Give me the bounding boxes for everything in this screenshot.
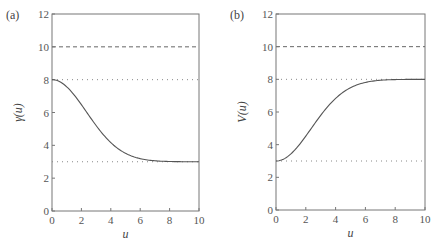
- x-tick-label: 4: [108, 214, 114, 226]
- y-tick-label: 0: [268, 204, 274, 216]
- y-tick-label: 6: [268, 106, 274, 118]
- y-tick-label: 10: [38, 41, 50, 53]
- x-tick-label: 8: [392, 213, 398, 225]
- series-curve: [276, 79, 425, 161]
- panel-b: 0246810024681012uV(u)(b): [230, 8, 431, 240]
- x-tick-label: 2: [303, 213, 309, 225]
- y-tick-label: 0: [44, 205, 50, 217]
- x-tick-label: 8: [167, 214, 173, 226]
- x-tick-label: 10: [420, 213, 432, 225]
- x-tick-label: 6: [363, 213, 369, 225]
- y-tick-label: 4: [44, 139, 50, 151]
- x-tick-label: 0: [273, 213, 279, 225]
- figure: 0246810024681012uγ(u)(a)0246810024681012…: [0, 0, 440, 245]
- y-tick-label: 12: [38, 8, 49, 20]
- panel-a: 0246810024681012uγ(u)(a): [6, 8, 205, 241]
- x-tick-label: 0: [49, 214, 55, 226]
- y-tick-label: 8: [44, 74, 50, 86]
- y-tick-label: 2: [44, 172, 50, 184]
- x-axis-label: u: [348, 226, 354, 240]
- y-axis-label: γ(u): [11, 103, 25, 122]
- y-tick-label: 8: [268, 73, 274, 85]
- panel-label: (a): [6, 8, 19, 22]
- y-tick-label: 6: [44, 107, 50, 119]
- y-tick-label: 4: [268, 139, 274, 151]
- x-tick-label: 2: [79, 214, 85, 226]
- plot-frame: [52, 14, 199, 211]
- x-axis-label: u: [123, 227, 129, 241]
- y-tick-label: 12: [262, 8, 273, 20]
- panel-label: (b): [230, 8, 244, 22]
- series-curve: [52, 80, 199, 162]
- x-tick-label: 4: [333, 213, 339, 225]
- y-axis-label: V(u): [235, 101, 249, 122]
- y-tick-label: 10: [262, 41, 274, 53]
- x-tick-label: 10: [194, 214, 206, 226]
- x-tick-label: 6: [137, 214, 143, 226]
- plot-frame: [276, 14, 425, 210]
- y-tick-label: 2: [268, 171, 274, 183]
